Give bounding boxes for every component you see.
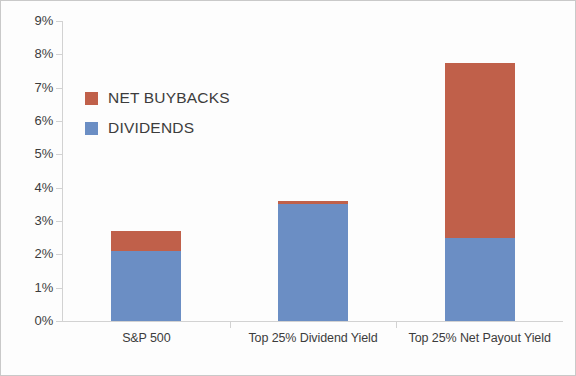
- legend-color-swatch: [85, 92, 98, 105]
- chart-container: 9%8%7%6%5%4%3%2%1%0% S&P 500Top 25% Divi…: [0, 0, 576, 376]
- y-axis-tick-label: 1%: [7, 281, 53, 294]
- y-axis-tick-mark: [56, 321, 62, 322]
- x-axis-separator: [230, 321, 231, 328]
- y-axis: 9%8%7%6%5%4%3%2%1%0%: [1, 1, 53, 376]
- y-axis-tick-mark: [56, 221, 62, 222]
- y-axis-tick-mark: [56, 21, 62, 22]
- y-axis-tick-mark: [56, 121, 62, 122]
- y-axis-tick-label: 2%: [7, 247, 53, 260]
- bar-segment-net-buybacks: [445, 63, 515, 238]
- y-axis-tick-label: 8%: [7, 47, 53, 60]
- legend-label: NET BUYBACKS: [108, 89, 230, 107]
- chart-legend: NET BUYBACKSDIVIDENDS: [85, 85, 295, 145]
- bar-segment-net-buybacks: [111, 231, 181, 251]
- y-axis-tick-label: 4%: [7, 181, 53, 194]
- bar-segment-dividends: [111, 251, 181, 321]
- y-axis-tick-label: 6%: [7, 114, 53, 127]
- x-axis-tick-label: Top 25% Dividend Yield: [230, 332, 397, 354]
- plot-area: [63, 21, 563, 321]
- x-axis-tick-label: S&P 500: [63, 332, 230, 354]
- stacked-bar: [445, 63, 515, 321]
- y-axis-tick-label: 7%: [7, 81, 53, 94]
- legend-item: NET BUYBACKS: [85, 85, 295, 111]
- bar-group: [230, 21, 397, 321]
- legend-label: DIVIDENDS: [108, 119, 194, 137]
- y-axis-tick-mark: [56, 254, 62, 255]
- x-axis-tick-label: Top 25% Net Payout Yield: [396, 332, 563, 354]
- y-axis-tick-mark: [56, 188, 62, 189]
- x-axis-labels: S&P 500Top 25% Dividend YieldTop 25% Net…: [63, 332, 563, 354]
- y-axis-tick-label: 9%: [7, 14, 53, 27]
- y-axis-tick-label: 3%: [7, 214, 53, 227]
- bar-group: [63, 21, 230, 321]
- stacked-bar: [278, 201, 348, 321]
- bar-group: [396, 21, 563, 321]
- stacked-bar: [111, 231, 181, 321]
- y-axis-tick-label: 0%: [7, 314, 53, 327]
- x-axis-separator: [396, 321, 397, 328]
- x-axis-line: [62, 321, 563, 322]
- legend-item: DIVIDENDS: [85, 115, 295, 141]
- y-axis-tick-mark: [56, 288, 62, 289]
- y-axis-tick-mark: [56, 154, 62, 155]
- y-axis-tick-mark: [56, 88, 62, 89]
- bar-segment-dividends: [445, 238, 515, 321]
- y-axis-tick-label: 5%: [7, 147, 53, 160]
- legend-color-swatch: [85, 122, 98, 135]
- y-axis-tick-mark: [56, 54, 62, 55]
- bar-segment-dividends: [278, 204, 348, 321]
